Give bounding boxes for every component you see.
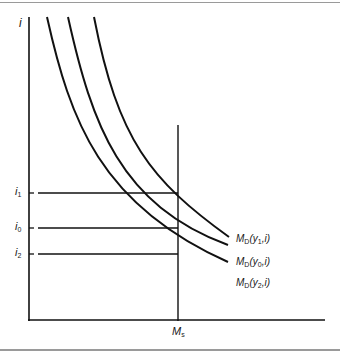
rate-label-i2: i2 — [15, 247, 21, 259]
money-supply-label: Ms — [172, 326, 185, 338]
y-axis-label: i — [19, 17, 22, 29]
demand-curve-y1 — [94, 17, 229, 237]
rate-label-i0: i0 — [15, 221, 21, 233]
curve-label-y0: MD(y0,i) — [236, 257, 270, 267]
curve-label-y2: MD(y2,i) — [236, 278, 270, 288]
money-market-diagram — [0, 0, 340, 353]
demand-curve-y2 — [47, 17, 228, 262]
rate-label-i1: i1 — [15, 186, 21, 198]
demand-curve-y0 — [68, 17, 228, 245]
curve-label-y1: MD(y1,i) — [236, 234, 270, 244]
